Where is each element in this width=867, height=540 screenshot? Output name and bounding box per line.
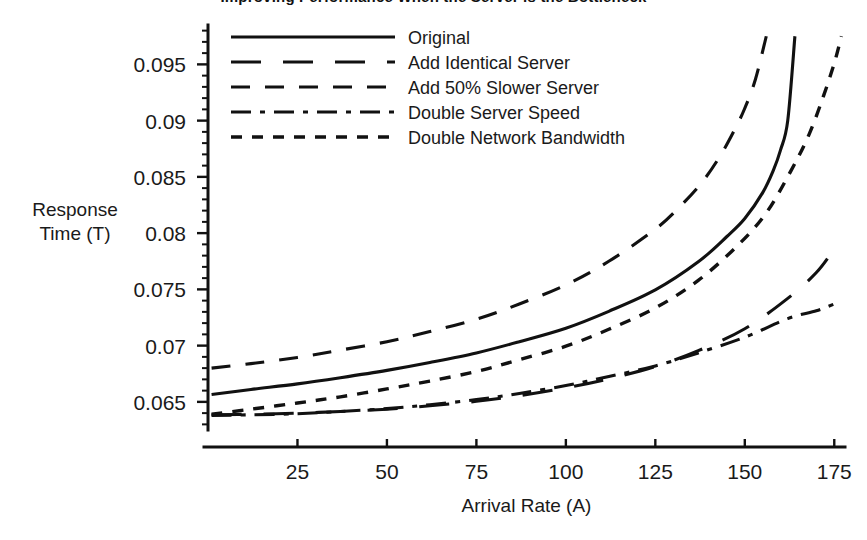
series-line	[212, 249, 835, 415]
x-axis-title: Arrival Rate (A)	[462, 495, 592, 516]
chart-canvas: 0.0650.070.0750.080.0850.090.095 2550751…	[0, 0, 867, 540]
y-tick-label: 0.075	[133, 278, 186, 301]
axis-titles: Arrival Rate (A)ResponseTime (T)	[32, 199, 591, 516]
x-tick-label: 175	[817, 460, 852, 483]
legend-label[interactable]: Add Identical Server	[408, 53, 570, 73]
legend-label[interactable]: Add 50% Slower Server	[408, 78, 599, 98]
x-tick-label: 25	[286, 460, 309, 483]
y-axis-title-line1: Response	[32, 199, 118, 220]
y-tick-label: 0.08	[145, 222, 186, 245]
y-tick-label: 0.07	[145, 335, 186, 358]
y-tick-label: 0.095	[133, 53, 186, 76]
y-axis: 0.0650.070.0750.080.0850.090.095	[133, 25, 208, 430]
x-axis: 255075100125150175	[204, 439, 852, 483]
legend: OriginalAdd Identical ServerAdd 50% Slow…	[231, 28, 625, 148]
legend-label[interactable]: Original	[408, 28, 470, 48]
chart-container: Improving Performance When the Server is…	[0, 0, 867, 540]
legend-label[interactable]: Double Server Speed	[408, 103, 580, 123]
y-tick-label: 0.09	[145, 110, 186, 133]
x-tick-label: 125	[638, 460, 673, 483]
x-tick-label: 75	[465, 460, 488, 483]
x-tick-label: 150	[727, 460, 762, 483]
x-tick-label: 50	[375, 460, 398, 483]
y-tick-label: 0.085	[133, 166, 186, 189]
legend-label[interactable]: Double Network Bandwidth	[408, 128, 625, 148]
y-axis-title-line2: Time (T)	[39, 223, 110, 244]
x-tick-label: 100	[548, 460, 583, 483]
y-tick-label: 0.065	[133, 391, 186, 414]
